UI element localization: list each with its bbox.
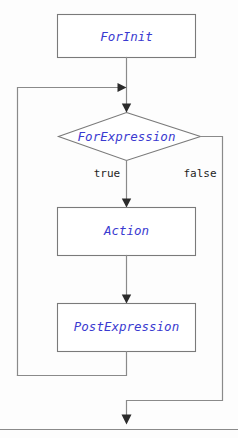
arrow-head-loop-back-join	[118, 83, 127, 92]
arrow-head-exit	[122, 415, 132, 425]
edge-post-expression-to-loop-back	[18, 352, 127, 376]
flowchart-diagram: ForInit ForExpression true false Action …	[0, 0, 238, 438]
node-action-label: Action	[103, 223, 149, 238]
arrow-head-into-post-expression	[122, 295, 131, 304]
node-post-expression-label: PostExpression	[74, 319, 179, 334]
arrow-head-into-action	[122, 199, 131, 208]
node-for-init-label: ForInit	[100, 29, 153, 44]
node-for-expression-label: ForExpression	[78, 129, 176, 144]
edge-label-true: true	[94, 167, 121, 180]
arrow-head-into-for-expression	[122, 104, 131, 113]
flowchart-canvas: ForInit ForExpression true false Action …	[0, 0, 238, 438]
edge-label-false: false	[183, 167, 216, 180]
